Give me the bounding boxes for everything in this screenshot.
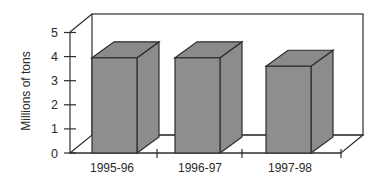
bar-1997-98 — [266, 50, 333, 153]
y-tick-label: 2 — [51, 98, 58, 112]
bars — [92, 42, 333, 153]
bar-front-face — [266, 66, 311, 153]
x-tick-label: 1995-96 — [90, 161, 134, 175]
bar-side-face — [220, 42, 242, 153]
y-tick-label: 0 — [51, 147, 58, 161]
bar-1995-96 — [92, 42, 159, 153]
bar-1996-97 — [175, 42, 242, 153]
x-tick-label: 1996-97 — [178, 161, 222, 175]
y-axis-ticks: 012345 — [51, 26, 76, 161]
bar-side-face — [311, 50, 333, 153]
bar-front-face — [92, 58, 137, 153]
y-tick-label: 1 — [51, 122, 58, 136]
bar-front-face — [175, 58, 220, 153]
x-tick-label: 1997-98 — [268, 161, 312, 175]
y-axis-title: Millions of tons — [19, 51, 33, 130]
y-tick-label: 5 — [51, 26, 58, 40]
y-tick-label: 4 — [51, 50, 58, 64]
y-tick-label: 3 — [51, 74, 58, 88]
bar-chart-3d: 012345 1995-961996-971997-98 Millions of… — [0, 0, 381, 183]
bar-side-face — [137, 42, 159, 153]
left-wall-top-edge — [70, 14, 92, 32]
x-axis-labels: 1995-961996-971997-98 — [90, 161, 312, 175]
